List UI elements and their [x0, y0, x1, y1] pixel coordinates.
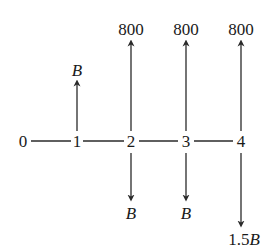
outflow-label-period-2: B	[126, 204, 137, 223]
inflow-label-period-2: 800	[118, 20, 144, 39]
outflow-label-period-4-coefficient: 1.5	[228, 230, 249, 249]
outflow-label-period-4-variable: B	[249, 230, 260, 249]
diagram-canvas: 0 1 2 3 4 B 800 800 800 B B 1.5B	[0, 0, 276, 252]
period-label-0: 0	[19, 132, 28, 151]
cash-flow-diagram: 0 1 2 3 4 B 800 800 800 B B 1.5B	[0, 0, 276, 252]
inflow-label-period-4: 800	[228, 20, 254, 39]
period-label-3: 3	[182, 132, 191, 151]
period-label-4: 4	[237, 132, 246, 151]
period-label-2: 2	[127, 132, 136, 151]
inflow-label-period-3: 800	[173, 20, 199, 39]
period-label-1: 1	[73, 132, 82, 151]
outflow-label-period-4: 1.5B	[228, 230, 260, 249]
inflow-label-period-1: B	[72, 61, 83, 80]
outflow-label-period-3: B	[181, 204, 192, 223]
